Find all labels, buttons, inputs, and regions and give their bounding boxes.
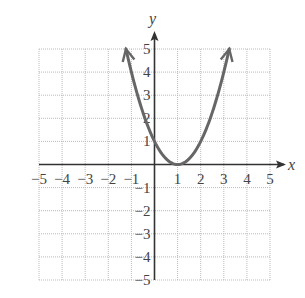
x-tick-label: 5	[266, 171, 274, 187]
x-tick-label: 2	[197, 171, 205, 187]
parabola-graph: −5−4−3−2−112345−5−4−3−2−112345 x y	[0, 0, 305, 298]
y-tick-label: 5	[143, 41, 151, 57]
y-tick-label: −2	[135, 203, 151, 219]
y-tick-label: −1	[135, 180, 151, 196]
x-tick-label: −5	[31, 171, 47, 187]
y-tick-label: 4	[143, 64, 151, 80]
x-tick-label: −2	[100, 171, 116, 187]
x-axis-label: x	[287, 156, 295, 173]
x-tick-label: −3	[77, 171, 93, 187]
y-tick-label: −3	[135, 226, 151, 242]
x-tick-label: 4	[243, 171, 251, 187]
x-tick-label: 3	[220, 171, 228, 187]
y-tick-label: 1	[143, 133, 151, 149]
y-tick-label: −5	[135, 272, 151, 288]
x-tick-label: −4	[54, 171, 70, 187]
x-tick-label: 1	[174, 171, 182, 187]
y-tick-label: −4	[135, 249, 151, 265]
y-tick-label: 3	[143, 87, 151, 103]
y-axis-label: y	[147, 10, 157, 28]
